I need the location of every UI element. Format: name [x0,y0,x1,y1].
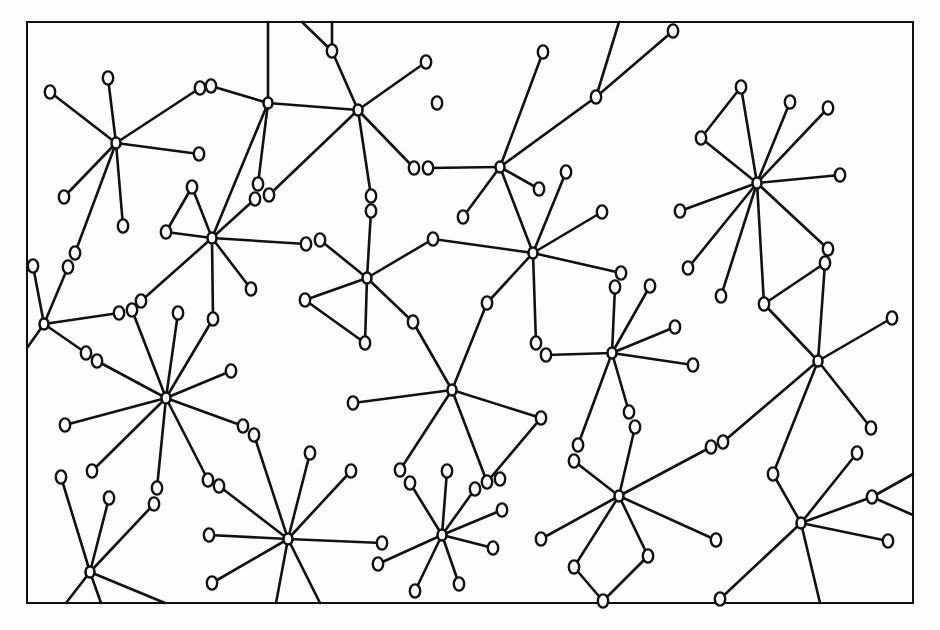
edge-line [442,535,459,584]
edge-line [721,183,757,296]
edge-line [50,92,116,143]
leaf-node-circle [70,246,80,259]
edge-line [305,278,367,300]
edge-line [44,324,86,353]
edge-line [463,167,500,217]
leaf-node-circle [883,534,893,547]
edge-line [619,447,711,496]
leaf-node-circle [866,421,876,434]
edge-line [116,88,200,143]
leaf-node-circle [495,472,505,485]
edge-line [442,535,493,548]
edge-line [288,539,320,603]
edge-line [612,353,693,365]
hub-node-circle [448,385,457,396]
leaf-node-circle [173,306,183,319]
edge-line [116,143,199,154]
edge-line [541,496,619,539]
edge-line [801,523,888,541]
edge-line [546,353,612,355]
edge-line [97,361,166,398]
leaf-node-circle [327,44,337,57]
leaf-node-circle [683,261,693,274]
edge-line [764,304,818,361]
leaf-node-circle [149,497,159,510]
leaf-node-circle [541,348,551,361]
edge-line [219,486,288,539]
hub-node-circle [363,273,372,284]
edge-line [487,253,533,303]
leaf-node-circle [759,297,769,310]
leaf-node-circle [405,476,415,489]
leaf-node-circle [203,473,213,486]
leaf-node-circle [536,411,546,424]
edge-line [818,318,892,361]
leaf-node-circle [301,237,311,250]
leaf-node-circle [366,189,376,202]
hub-node-circle [615,491,624,502]
leaf-node-circle [820,256,830,269]
edge-line [701,138,757,183]
leaf-node-circle [670,320,680,333]
leaf-node-circle [250,192,260,205]
leaf-node-circle [867,490,877,503]
edge-line [452,390,487,482]
leaf-node-circle [432,96,442,109]
leaf-node-circle [28,259,38,272]
leaf-node-circle [718,435,728,448]
leaf-node-circle [161,225,171,238]
leaf-node-circle [536,532,546,545]
leaf-node-circle [253,177,263,190]
edge-line [212,238,306,244]
edge-line [33,266,44,324]
leaf-node-circle [395,463,405,476]
edge-line [211,86,268,103]
edge-line [358,62,426,110]
leaf-node-circle [59,190,69,203]
edge-line [108,78,116,143]
leaf-node-circle [643,549,653,562]
leaf-node-circle [716,289,726,302]
leaf-node-circle [127,303,137,316]
edge-line [353,390,452,403]
hub-node-circle [797,518,806,529]
edge-line [818,263,825,361]
leaf-node-circle [249,428,259,441]
edge-line [818,361,871,428]
edge-line [276,539,288,603]
edge-line [166,371,231,398]
edge-line [410,483,442,535]
edge-line [578,353,612,445]
leaf-node-circle [45,85,55,98]
edge-line [320,240,367,278]
edge-line [90,572,165,603]
leaf-node-circle [305,446,315,459]
edge-line [757,175,840,183]
leaf-node-circle [624,405,634,418]
edge-line [773,361,818,474]
edge-layer [27,22,913,603]
edge-line [533,253,536,343]
edge-line [75,143,116,253]
leaf-node-circle [482,475,492,488]
leaf-node-circle [421,55,431,68]
leaf-node-circle [668,24,678,37]
hub-node-circle [40,319,49,330]
edge-line [61,477,90,572]
leaf-node-circle [136,294,146,307]
leaf-node-circle [348,396,358,409]
edge-line [209,535,288,539]
leaf-node-circle [470,482,480,495]
leaf-node-circle [246,282,256,295]
edge-line [212,539,288,583]
edge-line [872,497,913,515]
edge-line [701,87,741,138]
diagram-frame [27,22,913,603]
edge-line [157,398,166,488]
edge-line [487,418,541,482]
edge-line [268,103,358,110]
edge-line [44,313,119,324]
edge-line [612,287,615,353]
leaf-node-circle [315,233,325,246]
edge-line [116,143,123,226]
